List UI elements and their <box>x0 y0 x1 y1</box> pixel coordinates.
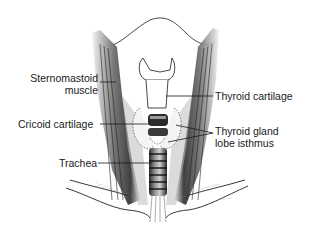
neck-anatomy-figure: Sternomastoid muscle Cricoid cartilage T… <box>0 0 311 235</box>
cricoid-cartilage <box>148 114 168 136</box>
label-text: Thyroid gland <box>215 125 279 137</box>
trachea <box>149 148 167 222</box>
label-trachea: Trachea <box>59 157 97 169</box>
label-cricoid-cartilage: Cricoid cartilage <box>18 118 93 130</box>
label-sternomastoid-muscle: Sternomastoid muscle <box>25 72 98 96</box>
label-thyroid-gland-lobe-isthmus: Thyroid gland lobe isthmus <box>215 125 279 149</box>
label-thyroid-cartilage: Thyroid cartilage <box>215 90 293 102</box>
jaw-outline <box>113 18 215 45</box>
thyroid-cartilage <box>139 58 175 108</box>
label-text: muscle <box>25 84 98 96</box>
label-text: lobe isthmus <box>215 137 279 149</box>
label-text: Sternomastoid <box>25 72 98 84</box>
